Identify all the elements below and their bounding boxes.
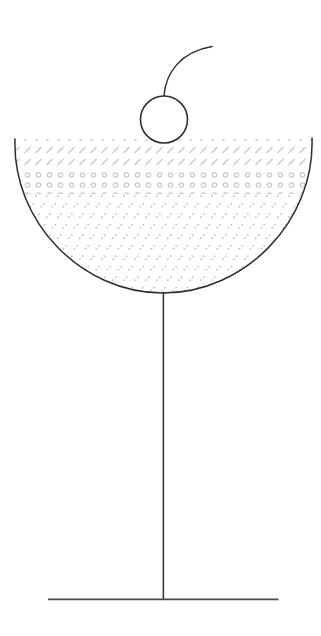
cherry-stem (164, 47, 212, 96)
cocktail-svg (0, 0, 321, 636)
cherry (141, 96, 188, 143)
fill-layer-slash-hatch (8, 139, 316, 171)
fill-layer-ring-dots (8, 171, 316, 194)
bowl-fill-layers (8, 139, 316, 295)
cocktail-illustration (0, 0, 321, 636)
